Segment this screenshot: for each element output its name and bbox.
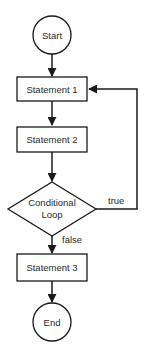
statement-3-label: Statement 3: [26, 262, 77, 273]
conditional-label-line-1: Conditional: [28, 197, 76, 208]
false-edge-label: false: [62, 234, 82, 245]
end-node: End: [33, 303, 71, 341]
conditional-loop-node: Conditional Loop: [8, 182, 96, 236]
statement-2-node: Statement 2: [17, 127, 87, 152]
edge-conditional-true-to-statement-1: [89, 89, 137, 209]
true-edge-label: true: [108, 195, 124, 206]
flowchart: Start Statement 1 Statement 2 Conditiona…: [0, 0, 144, 359]
end-label: End: [44, 317, 61, 328]
statement-1-node: Statement 1: [17, 77, 87, 101]
statement-1-label: Statement 1: [26, 84, 77, 95]
statement-2-label: Statement 2: [26, 134, 77, 145]
start-label: Start: [42, 30, 62, 41]
statement-3-node: Statement 3: [17, 254, 87, 281]
conditional-label-line-2: Loop: [41, 209, 62, 220]
start-node: Start: [33, 16, 71, 54]
